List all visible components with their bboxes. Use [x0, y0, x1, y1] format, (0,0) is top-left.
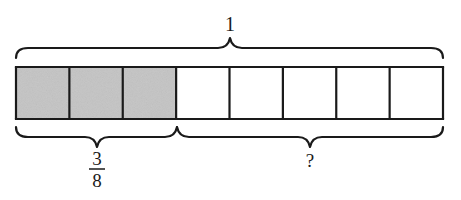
unshaded-segment [283, 67, 336, 119]
shaded-segment [16, 67, 69, 119]
fraction-denominator: 8 [92, 170, 102, 191]
unshaded-segment [230, 67, 283, 119]
tape-bar [15, 67, 444, 119]
unshaded-segment [176, 67, 229, 119]
shaded-segment [123, 67, 176, 119]
whole-label: 1 [225, 13, 235, 35]
unknown-part-brace [177, 127, 443, 147]
unshaded-segment [336, 67, 389, 119]
tape-diagram: 1 3 8 ? [0, 0, 461, 200]
fraction-numerator: 3 [92, 148, 102, 169]
shaded-segment [69, 67, 122, 119]
unknown-label: ? [306, 150, 314, 171]
shaded-fraction-label: 3 8 [89, 148, 105, 191]
unshaded-segment [390, 67, 443, 119]
whole-brace [16, 38, 443, 58]
shaded-part-brace [16, 127, 177, 147]
